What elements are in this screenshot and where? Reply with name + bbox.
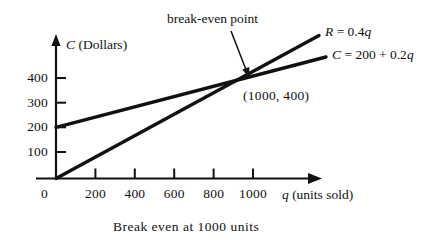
cost-equation-rhs: = 200 + 0.2 — [341, 47, 407, 62]
origin-label: 0 — [41, 187, 48, 201]
break-even-chart-figure: C (Dollars) q (units sold) 400 300 200 1… — [0, 0, 446, 243]
break-even-point-annotation: break-even point — [167, 12, 258, 26]
cost-equation-label: C = 200 + 0.2q — [332, 48, 414, 62]
cost-equation-variable: q — [407, 47, 414, 62]
cost-equation-lhs: C — [332, 47, 341, 62]
revenue-equation-label: R = 0.4q — [325, 25, 371, 39]
x-tick-label-200: 200 — [82, 187, 109, 201]
figure-caption: Break even at 1000 units — [113, 220, 259, 234]
y-tick-label-100: 100 — [18, 145, 48, 159]
x-axis-ticks — [95, 169, 253, 179]
intersection-point-label: (1000, 400) — [243, 89, 309, 103]
x-axis — [36, 173, 322, 184]
revenue-equation-rhs: = 0.4 — [333, 24, 364, 39]
y-tick-label-200: 200 — [18, 120, 48, 134]
break-even-arrow — [231, 31, 249, 78]
y-tick-label-300: 300 — [18, 96, 48, 110]
y-axis-title: C (Dollars) — [66, 38, 127, 52]
x-tick-label-400: 400 — [121, 187, 148, 201]
y-tick-label-400: 400 — [18, 71, 48, 85]
y-axis-title-units: (Dollars) — [75, 37, 127, 52]
x-tick-label-1000: 1000 — [236, 187, 271, 201]
y-axis — [52, 34, 61, 180]
revenue-equation-variable: q — [365, 24, 372, 39]
revenue-equation-lhs: R — [325, 24, 333, 39]
y-axis-ticks — [56, 78, 66, 152]
x-tick-label-800: 800 — [200, 187, 227, 201]
x-tick-label-600: 600 — [161, 187, 188, 201]
x-axis-title-units: (units sold) — [289, 187, 354, 202]
x-axis-title-variable: q — [282, 187, 289, 202]
revenue-line — [56, 36, 319, 179]
y-axis-title-variable: C — [66, 37, 75, 52]
x-axis-title: q (units sold) — [282, 188, 353, 202]
